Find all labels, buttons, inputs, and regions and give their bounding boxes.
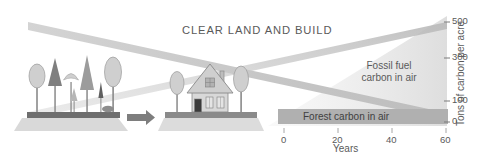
x-tick-label-0: 0	[281, 134, 286, 145]
tree-oval-remaining-right	[234, 66, 249, 112]
ground-debris	[102, 106, 114, 112]
carbon-land-use-diagram: CLEAR LAND AND BUILD Fossil fuel carbon …	[0, 0, 500, 158]
x-tick-label-60: 60	[440, 134, 451, 145]
tree-oval-light	[29, 64, 45, 112]
forest-scene	[14, 55, 128, 131]
fossil-fuel-annotation: Fossil fuel carbon in air	[350, 60, 428, 83]
page-title: CLEAR LAND AND BUILD	[182, 24, 332, 37]
forest-carbon-bar-label: Forest carbon in air	[303, 111, 389, 123]
x-tick-label-40: 40	[386, 134, 397, 145]
tree-oval-large	[105, 57, 122, 112]
x-axis-title: Years	[333, 143, 358, 155]
tree-oval-remaining-left	[170, 72, 184, 113]
x-axis-ticks	[284, 128, 446, 133]
cleared-house-scene	[158, 64, 264, 131]
shrub-spike-dark	[98, 82, 103, 112]
arrow-right-icon	[127, 110, 155, 125]
y-axis-title: Tons of carbon per acre	[455, 6, 466, 126]
tree-conifer-dark	[48, 58, 62, 112]
